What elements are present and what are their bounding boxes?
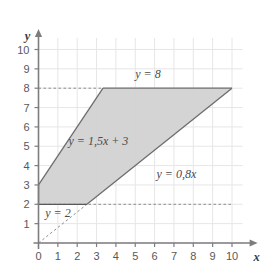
x-tick-label: 1 [55, 250, 61, 262]
coordinate-plot: 01234567891012345678910yx y = 8y = 1,5x … [0, 0, 277, 275]
x-tick-label: 2 [74, 250, 80, 262]
equation-label: y = 0,8x [156, 167, 197, 181]
equation-label: y = 8 [134, 67, 160, 81]
y-tick-label: 9 [23, 63, 29, 75]
x-tick-label: 6 [152, 250, 158, 262]
y-tick-label: 4 [23, 160, 29, 172]
x-tick-label: 7 [171, 250, 177, 262]
x-tick-label: 5 [132, 250, 138, 262]
x-tick-label: 10 [226, 250, 238, 262]
y-tick-label: 1 [23, 218, 29, 230]
y-tick-label: 10 [17, 44, 29, 56]
x-tick-label: 9 [210, 250, 216, 262]
y-tick-label: 5 [23, 140, 29, 152]
y-tick-label: 7 [23, 102, 29, 114]
y-tick-label: 6 [23, 121, 29, 133]
y-tick-label: 2 [23, 198, 29, 210]
x-tick-label: 0 [35, 250, 41, 262]
equation-label: y = 2 [44, 206, 70, 220]
y-axis-name: y [23, 29, 31, 43]
y-tick-label: 8 [23, 82, 29, 94]
x-tick-label: 4 [113, 250, 119, 262]
x-tick-label: 8 [190, 250, 196, 262]
equation-label: y = 1,5x + 3 [67, 134, 128, 148]
y-tick-label: 3 [23, 179, 29, 191]
x-tick-label: 3 [93, 250, 99, 262]
graph-figure: 01234567891012345678910yx y = 8y = 1,5x … [0, 0, 277, 275]
x-axis-name: x [253, 250, 260, 264]
